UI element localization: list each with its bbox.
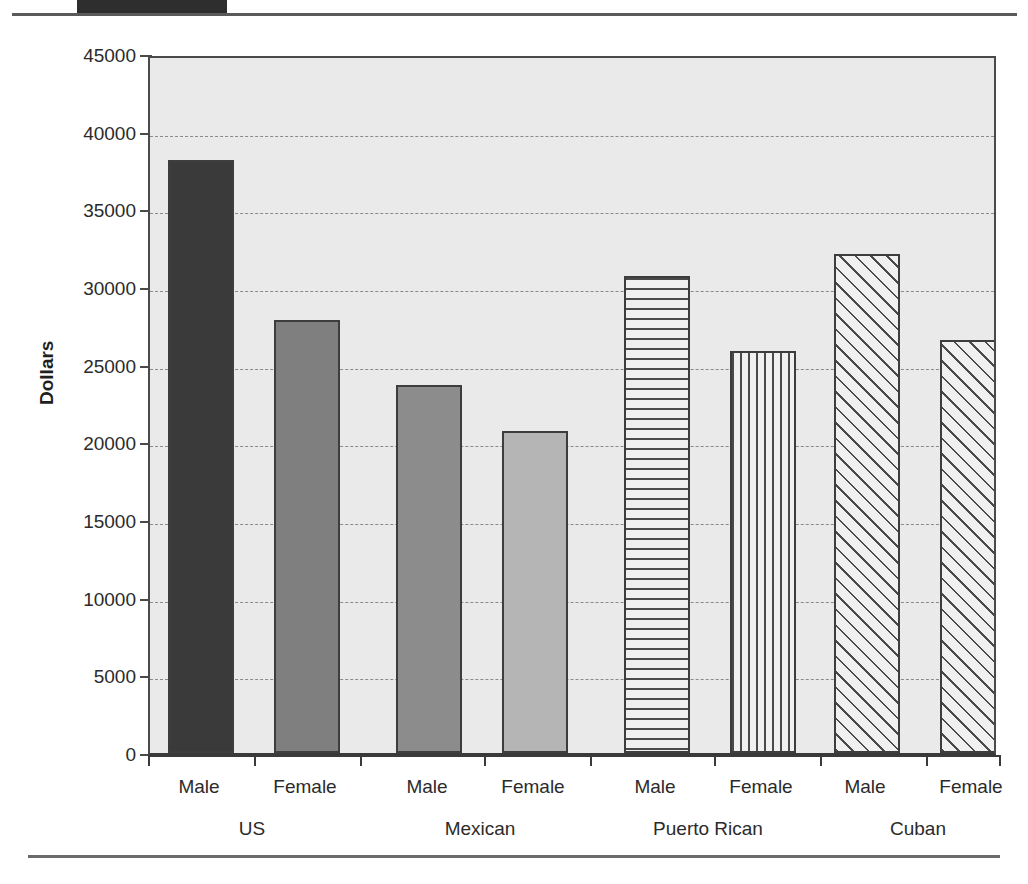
bar bbox=[502, 431, 568, 753]
x-axis-group-label: Cuban bbox=[890, 818, 946, 840]
y-tick-label: 30000 bbox=[0, 278, 136, 300]
x-tick-mark bbox=[254, 755, 256, 766]
x-axis-label-male: Male bbox=[406, 776, 447, 798]
bar-chart: Dollars 05000100001500020000250003000035… bbox=[0, 0, 1028, 884]
page-canvas: Dollars 05000100001500020000250003000035… bbox=[0, 0, 1028, 884]
x-axis-label-male: Male bbox=[178, 776, 219, 798]
bar bbox=[274, 320, 340, 753]
x-axis-group-label: Mexican bbox=[445, 818, 516, 840]
y-tick-label: 40000 bbox=[0, 123, 136, 145]
x-axis-line bbox=[148, 755, 1000, 757]
x-tick-mark bbox=[714, 755, 716, 766]
y-tick-label: 15000 bbox=[0, 511, 136, 533]
x-tick-mark bbox=[999, 755, 1001, 766]
gridline bbox=[150, 213, 994, 214]
y-tick-label: 0 bbox=[0, 744, 136, 766]
y-tick-label: 25000 bbox=[0, 356, 136, 378]
y-tick-label: 5000 bbox=[0, 666, 136, 688]
y-tick-label: 45000 bbox=[0, 45, 136, 67]
x-tick-mark bbox=[926, 755, 928, 766]
y-tick-label: 35000 bbox=[0, 200, 136, 222]
x-axis-label-male: Male bbox=[634, 776, 675, 798]
x-tick-mark bbox=[484, 755, 486, 766]
x-tick-mark bbox=[820, 755, 822, 766]
x-axis-label-female: Female bbox=[729, 776, 792, 798]
bar bbox=[834, 254, 900, 753]
x-axis-group-label: Puerto Rican bbox=[653, 818, 763, 840]
x-axis-label-female: Female bbox=[501, 776, 564, 798]
x-axis-label-female: Female bbox=[939, 776, 1002, 798]
x-axis-label-female: Female bbox=[273, 776, 336, 798]
y-tick-label: 10000 bbox=[0, 589, 136, 611]
bar bbox=[396, 385, 462, 753]
plot-area bbox=[148, 56, 996, 755]
bottom-horizontal-rule bbox=[28, 855, 1000, 858]
bar bbox=[168, 160, 234, 753]
bar bbox=[940, 340, 996, 753]
bar bbox=[730, 351, 796, 753]
bar bbox=[624, 276, 690, 753]
x-tick-mark bbox=[360, 755, 362, 766]
x-tick-mark bbox=[590, 755, 592, 766]
x-tick-mark bbox=[148, 755, 150, 766]
y-tick-label: 20000 bbox=[0, 433, 136, 455]
x-axis-group-label: US bbox=[239, 818, 265, 840]
gridline bbox=[150, 136, 994, 137]
x-axis-label-male: Male bbox=[844, 776, 885, 798]
